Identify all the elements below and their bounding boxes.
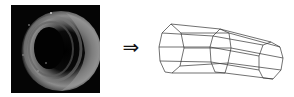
- double-right-arrow-icon: ⇒: [118, 34, 144, 60]
- ring-3: [259, 42, 283, 79]
- lumen-photo-graphic: [11, 5, 100, 93]
- wireframe-graphic: [150, 15, 294, 85]
- wireframe-tube-model: [150, 15, 294, 85]
- lumen-cross-section-image: [11, 5, 100, 93]
- ring-2: [210, 29, 231, 73]
- figure: ⇒: [0, 0, 294, 97]
